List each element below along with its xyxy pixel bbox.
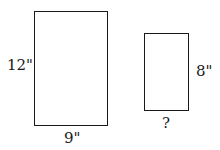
small-rectangle <box>144 33 189 111</box>
small-rectangle-width-label: ? <box>162 116 170 131</box>
large-rectangle <box>34 11 108 126</box>
small-rectangle-height-label: 8" <box>196 64 212 79</box>
large-rectangle-width-label: 9" <box>64 131 80 146</box>
large-rectangle-height-label: 12" <box>7 58 33 73</box>
